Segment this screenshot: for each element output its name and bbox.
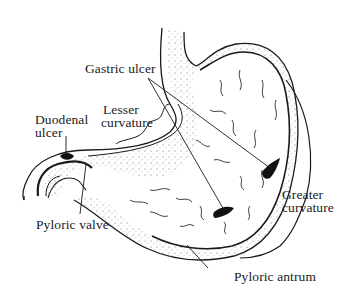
duodenal-ulcer-mark bbox=[60, 153, 74, 160]
label-lesser-curvature-line2: curvature bbox=[101, 116, 153, 130]
label-gastric-ulcer: Gastric ulcer bbox=[85, 62, 156, 76]
label-pyloric-valve: Pyloric valve bbox=[36, 218, 109, 232]
label-duodenal-ulcer-line2: ulcer bbox=[35, 126, 62, 140]
stomach-diagram: Gastric ulcer Lesser curvature Duodenal … bbox=[0, 0, 351, 294]
stomach-illustration bbox=[0, 0, 351, 294]
label-pyloric-antrum: Pyloric antrum bbox=[234, 270, 316, 284]
gastric-ulcer-upper-mark bbox=[262, 158, 280, 179]
label-greater-curvature-line2: curvature bbox=[282, 201, 334, 215]
